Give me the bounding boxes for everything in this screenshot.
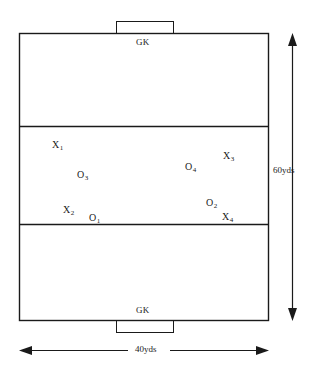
player-marker-o3: O3 [77, 170, 88, 180]
player-marker-o4: O4 [185, 162, 196, 172]
player-marker-x3: X3 [223, 151, 234, 161]
player-team-letter: X [223, 150, 230, 161]
field-svg [0, 0, 322, 371]
field-boundary [20, 34, 269, 321]
goalkeeper-label-top: GK [136, 38, 149, 47]
player-marker-x1: X1 [52, 140, 63, 150]
dimension-label-horizontal: 40yds [135, 345, 157, 354]
player-marker-o2: O2 [206, 198, 217, 208]
player-team-letter: O [77, 169, 84, 180]
player-number: 3 [85, 174, 89, 182]
dimension-label-vertical: 60yds [273, 166, 295, 175]
arrowhead-up-icon [288, 33, 297, 46]
goal-box-top [117, 22, 174, 34]
player-team-letter: O [185, 161, 192, 172]
player-number: 1 [97, 217, 101, 225]
player-number: 2 [71, 209, 75, 217]
player-number: 3 [231, 155, 235, 163]
arrowhead-left-icon [19, 346, 32, 355]
player-number: 1 [60, 144, 64, 152]
player-marker-o1: O1 [89, 213, 100, 223]
player-team-letter: X [63, 204, 70, 215]
goalkeeper-label-bottom: GK [136, 306, 149, 315]
arrowhead-right-icon [256, 346, 269, 355]
player-marker-x4: X4 [222, 212, 233, 222]
goal-box-bottom [117, 321, 174, 333]
field-diagram: GK GK X1O3X2O1O4X3O2X4 60yds 40yds [0, 0, 322, 371]
arrowhead-down-icon [288, 308, 297, 321]
player-number: 2 [214, 202, 218, 210]
player-marker-x2: X2 [63, 205, 74, 215]
player-number: 4 [230, 216, 234, 224]
player-team-letter: X [52, 139, 59, 150]
player-team-letter: X [222, 211, 229, 222]
player-number: 4 [193, 166, 197, 174]
player-team-letter: O [206, 197, 213, 208]
player-team-letter: O [89, 212, 96, 223]
